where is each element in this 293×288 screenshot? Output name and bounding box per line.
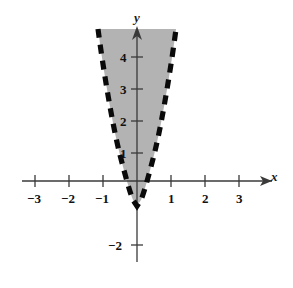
x-tick-label--2: −2 [61,192,75,205]
x-axis-label: x [271,170,278,183]
x-tick-label-3: 3 [236,192,243,205]
y-tick-label-4: 4 [120,51,127,64]
y-tick-label--2: −2 [108,239,122,252]
x-tick-label-2: 2 [202,192,209,205]
x-tick-label--3: −3 [27,192,41,205]
x-tick-label-1: 1 [168,192,175,205]
y-tick-label-1: 1 [120,147,127,160]
y-tick-label-2: 2 [120,115,127,128]
graph-figure: y x −3 −2 −1 1 2 3 4 3 2 1 −2 [0,0,293,288]
coordinate-plane [0,0,293,288]
x-tick-label--1: −1 [95,192,109,205]
y-tick-label-3: 3 [120,83,127,96]
y-axis-label: y [134,11,140,24]
